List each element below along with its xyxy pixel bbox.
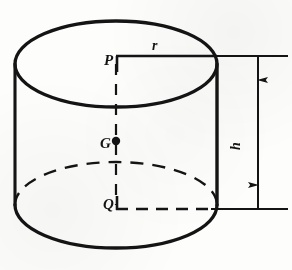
centroid-dot-marker <box>112 137 120 145</box>
label-point-g: G <box>100 136 111 151</box>
bottom-ellipse-visible-arc <box>15 205 217 248</box>
label-height-h: h <box>229 142 243 150</box>
cylinder-diagram-svg <box>0 0 292 270</box>
cylinder-figure: P r G Q h <box>0 0 292 270</box>
label-point-p: P <box>104 53 113 68</box>
label-radius-r: r <box>152 39 157 53</box>
label-point-q: Q <box>103 197 114 212</box>
